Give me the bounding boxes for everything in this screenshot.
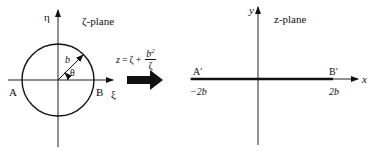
angle-label: θ — [70, 67, 75, 78]
xi-axis-label: ξ — [111, 89, 116, 100]
formula-lhs: z — [116, 54, 120, 65]
formula-denominator: ζ — [149, 60, 153, 71]
formula-fraction: b2 ζ — [145, 48, 156, 71]
zeta-plane-axes — [8, 10, 113, 147]
x-axis-label: x — [362, 74, 367, 85]
mapping-arrow-icon — [127, 70, 163, 90]
formula-equals: = — [122, 54, 128, 65]
point-a-label: A — [9, 87, 17, 98]
z-plane-title: z-plane — [274, 14, 306, 25]
point-b-label: B — [96, 87, 103, 98]
radius-label: b — [65, 54, 70, 65]
diagram-canvas — [0, 0, 371, 151]
point-a-prime-label: A′ — [193, 66, 202, 77]
left-tick-label: −2b — [190, 86, 207, 97]
joukowski-formula: z = ζ + b2 ζ — [116, 48, 156, 71]
numerator-power: 2 — [151, 47, 155, 55]
y-axis-label: y — [249, 5, 254, 16]
formula-numerator: b2 — [145, 48, 156, 60]
formula-term1: ζ — [130, 54, 134, 65]
formula-plus: + — [136, 54, 142, 65]
point-b-prime-label: B′ — [329, 66, 338, 77]
angle-arc — [65, 73, 68, 80]
zeta-plane-title: ζ-plane — [82, 16, 114, 27]
eta-axis-label: η — [44, 12, 50, 23]
right-tick-label: 2b — [329, 86, 339, 97]
